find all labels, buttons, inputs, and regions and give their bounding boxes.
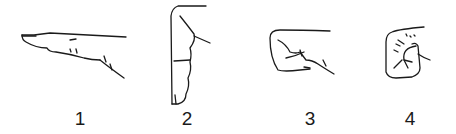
hand-drawing-4 [386, 27, 430, 78]
panel-label-3: 3 [300, 108, 320, 130]
hand-drawing-2 [171, 6, 210, 104]
hand-positions-figure: 1 2 3 4 [0, 0, 456, 134]
hand-drawing-3 [270, 30, 334, 74]
panel-label-1: 1 [70, 108, 90, 130]
panel-label-2: 2 [177, 108, 197, 130]
hand-drawing-1 [22, 33, 126, 78]
hand-drawings [0, 0, 456, 134]
panel-label-4: 4 [400, 108, 420, 130]
